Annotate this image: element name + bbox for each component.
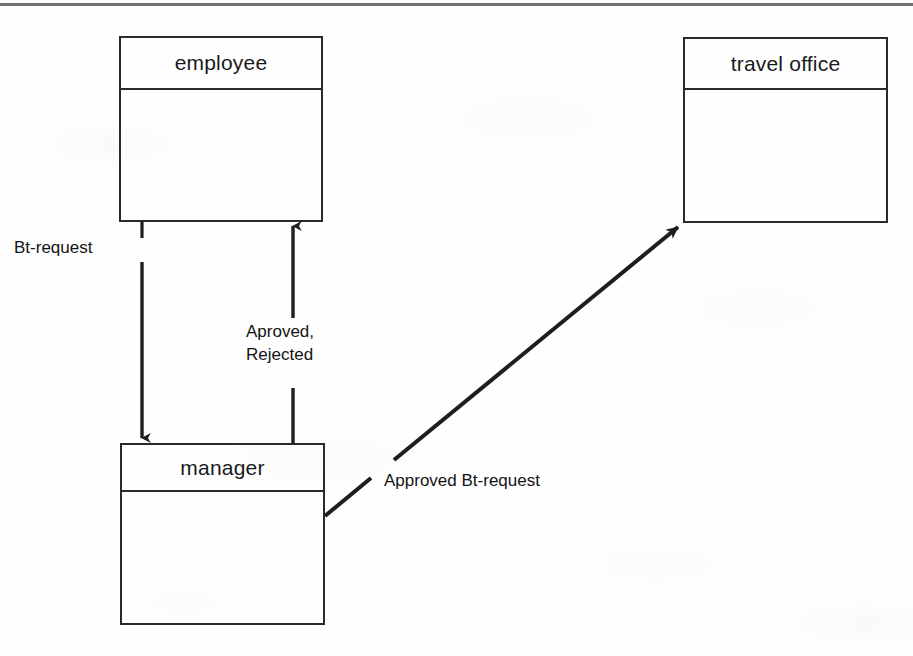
edge-label-bt-request: Bt-request	[14, 237, 92, 260]
connector-layer	[0, 0, 913, 656]
edge-label-aproved-rejected-line-2: Rejected	[246, 344, 314, 367]
diagram-canvas: employee travel office manager	[0, 0, 913, 656]
edge-label-approved-bt-request: Approved Bt-request	[384, 470, 540, 493]
edge-label-aproved-rejected: Aproved, Rejected	[246, 321, 314, 367]
edge-manager-to-travel-office[interactable]	[394, 227, 678, 460]
edge-label-aproved-rejected-line-1: Aproved,	[246, 321, 314, 344]
edge-manager-to-travel-office-stub	[325, 478, 371, 516]
